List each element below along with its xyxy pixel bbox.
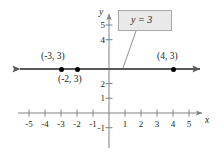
data-point-4-3 (171, 67, 176, 72)
data-point-neg3-3 (59, 67, 64, 72)
y-tick-label-4: 4 (95, 36, 105, 45)
y-tick-label-2: 2 (95, 80, 105, 89)
data-point-neg2-3 (75, 67, 80, 72)
x-tick-label-2: 2 (135, 120, 147, 129)
y-axis-label: y (99, 8, 103, 18)
x-axis-label: x (205, 116, 209, 126)
x-tick-label--2: -2 (70, 120, 84, 129)
x-tick-label-1: 1 (119, 120, 131, 129)
data-point-label-neg2-3: (-2, 3) (58, 75, 82, 85)
y-tick-label-1: 1 (95, 94, 105, 103)
data-point-label-neg3-3: (-3, 3) (41, 52, 65, 62)
x-tick-label--5: -5 (22, 120, 36, 129)
y-tick-label--1: -1 (91, 124, 105, 133)
x-tick-label-4: 4 (167, 120, 179, 129)
y-tick-label-5: 5 (95, 21, 105, 30)
graph-figure: y = 3 (-3, 3) (-2, 3) (4, 3) y x -5 -4 -… (0, 0, 222, 155)
x-tick-label-5: 5 (183, 120, 195, 129)
x-axis (18, 110, 202, 117)
y-axis (106, 14, 113, 148)
callout-leader-line (123, 31, 136, 68)
data-point-label-4-3: (4, 3) (157, 52, 178, 62)
x-tick-label-3: 3 (151, 120, 163, 129)
x-tick-label--3: -3 (54, 120, 68, 129)
equation-callout-label: y = 3 (131, 15, 152, 25)
x-tick-label--4: -4 (38, 120, 52, 129)
graph-canvas (0, 0, 222, 155)
